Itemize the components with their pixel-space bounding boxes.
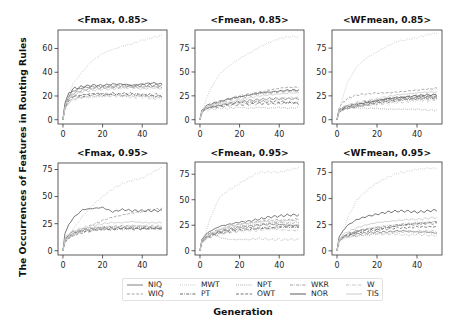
series-line-mwt (200, 167, 299, 251)
axes-frame (58, 30, 167, 124)
y-tick-label: 0 (321, 116, 326, 125)
subplot-title-fmean-085: <Fmean, 0.85> (195, 15, 304, 26)
series-line-nor (200, 89, 299, 119)
x-tick-label: 40 (274, 261, 284, 270)
legend-label: MWT (201, 281, 220, 289)
x-tick-label: 20 (372, 261, 382, 270)
legend-item-wkr: WKR (290, 280, 329, 289)
x-tick-label: 20 (234, 130, 244, 139)
series-line-mwt (63, 35, 162, 120)
legend-label: W (367, 281, 375, 289)
legend-item-niq: NIQ (127, 280, 162, 289)
series-line-tis (200, 219, 299, 250)
series-line-mwt (337, 168, 437, 251)
y-tick-label: 50 (179, 196, 189, 205)
x-tick-label: 0 (197, 130, 202, 139)
legend-item-nor: NOR (290, 289, 328, 298)
x-tick-label: 20 (97, 261, 107, 270)
subplot-title-wfmean-095: <WFmean, 0.95> (332, 148, 442, 159)
y-tick-label: 75 (316, 168, 326, 177)
subplot-4: 020400255075 (42, 163, 167, 270)
y-tick-label: 20 (42, 92, 52, 101)
y-tick-label: 50 (316, 194, 326, 203)
axes-frame (332, 30, 442, 124)
series-lines (337, 168, 437, 251)
legend-label: NOR (311, 290, 328, 298)
subplot-2: 020400255075 (179, 30, 304, 139)
series-lines (337, 33, 437, 120)
series-line-niq (63, 227, 162, 251)
legend-line-niq-icon (127, 282, 143, 288)
y-tick-label: 0 (184, 116, 189, 125)
subplot-title-wfmean-085: <WFmean, 0.85> (332, 15, 442, 26)
axes-frame (195, 162, 304, 255)
x-tick-label: 40 (137, 261, 147, 270)
x-axis-label: Generation (213, 306, 273, 317)
legend-item-npt: NPT (236, 280, 272, 289)
y-tick-label: 75 (179, 44, 189, 53)
legend: NIQ WIQ MWT PT NPT OWT WKR NOR W TIS (122, 278, 383, 301)
legend-item-tis: TIS (346, 289, 379, 298)
y-tick-label: 25 (42, 220, 52, 229)
x-tick-label: 0 (334, 130, 339, 139)
legend-item-mwt: MWT (180, 280, 220, 289)
x-tick-label: 20 (234, 261, 244, 270)
legend-label: OWT (257, 290, 275, 298)
legend-label: NPT (257, 281, 272, 289)
y-tick-label: 25 (179, 221, 189, 230)
subplot-title-fmax-095: <Fmax, 0.95> (58, 148, 167, 159)
series-lines (63, 35, 162, 120)
y-tick-label: 75 (316, 44, 326, 53)
y-tick-label: 75 (179, 170, 189, 179)
figure: 0204002040600204002550750204002550750204… (0, 0, 460, 324)
series-line-w (63, 95, 162, 120)
series-lines (200, 167, 299, 251)
x-tick-label: 20 (372, 130, 382, 139)
series-line-tis (200, 93, 299, 120)
y-tick-label: 25 (316, 92, 326, 101)
legend-label: PT (201, 290, 210, 298)
subplot-title-fmax-085: <Fmax, 0.85> (58, 15, 167, 26)
series-line-npt (200, 107, 299, 120)
legend-item-owt: OWT (236, 289, 275, 298)
subplot-title-fmean-095: <Fmean, 0.95> (195, 148, 304, 159)
legend-line-owt-icon (236, 291, 252, 297)
legend-line-w-icon (346, 282, 362, 288)
series-line-niq (200, 98, 299, 120)
x-tick-label: 40 (412, 261, 422, 270)
legend-item-pt: PT (180, 289, 210, 298)
legend-line-pt-icon (180, 291, 196, 297)
series-line-pt (200, 102, 299, 120)
plot-canvas: 0204002040600204002550750204002550750204… (0, 0, 460, 324)
legend-line-nor-icon (290, 291, 306, 297)
x-tick-label: 40 (137, 130, 147, 139)
y-axis-label: The Occurrences of Features in Routing R… (17, 37, 28, 277)
x-tick-label: 0 (60, 130, 65, 139)
axes-frame (332, 162, 442, 255)
y-tick-label: 25 (316, 221, 326, 230)
legend-item-wiq: WIQ (127, 289, 164, 298)
y-tick-label: 60 (42, 44, 52, 53)
subplot-1: 020400204060 (42, 30, 167, 139)
x-tick-label: 0 (197, 261, 202, 270)
legend-line-tis-icon (346, 291, 362, 297)
y-tick-label: 40 (42, 68, 52, 77)
axes-frame (195, 30, 304, 124)
y-tick-label: 50 (316, 68, 326, 77)
x-tick-label: 0 (60, 261, 65, 270)
subplot-5: 020400255075 (179, 162, 304, 270)
y-tick-label: 0 (321, 247, 326, 256)
x-tick-label: 40 (412, 130, 422, 139)
subplot-3: 020400255075 (316, 30, 442, 139)
series-line-wiq (63, 86, 162, 120)
series-lines (63, 167, 162, 251)
legend-line-mwt-icon (180, 282, 196, 288)
y-tick-label: 0 (184, 247, 189, 256)
legend-item-w: W (346, 280, 375, 289)
legend-line-wiq-icon (127, 291, 143, 297)
legend-label: NIQ (148, 281, 162, 289)
y-tick-label: 75 (42, 165, 52, 174)
subplot-6: 020400255075 (316, 162, 442, 270)
series-lines (200, 36, 299, 120)
x-tick-label: 20 (97, 130, 107, 139)
